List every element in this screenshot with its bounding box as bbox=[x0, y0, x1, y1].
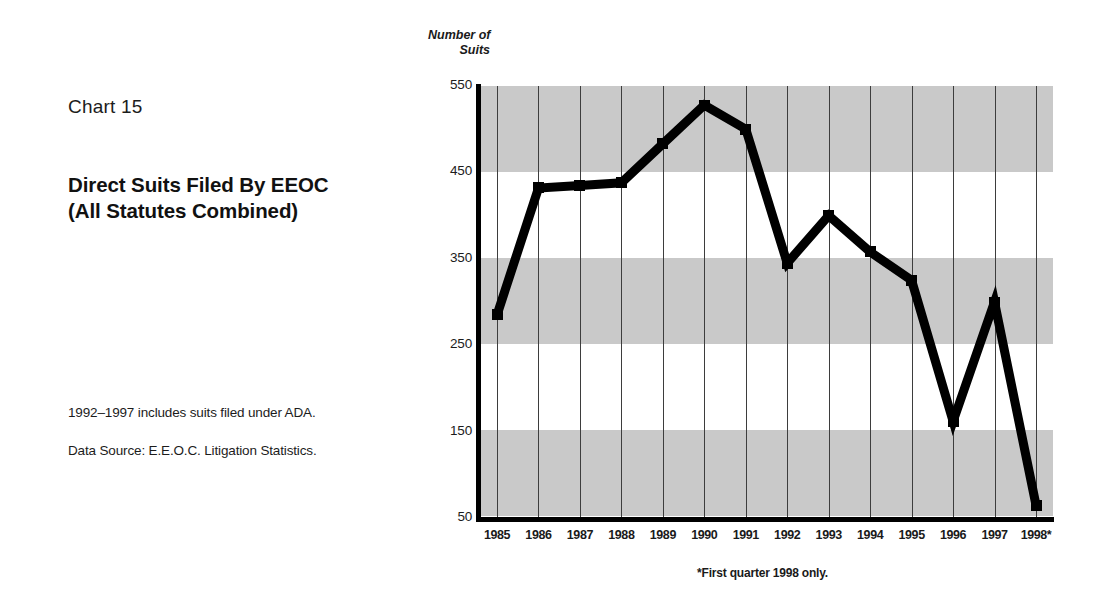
data-point-1990 bbox=[699, 100, 710, 111]
data-point-1998 bbox=[1031, 500, 1042, 511]
data-point-1994 bbox=[865, 246, 876, 257]
data-point-1989 bbox=[657, 138, 668, 149]
data-point-1993 bbox=[823, 210, 834, 221]
page-title-line-2: (All Statutes Combined) bbox=[68, 198, 398, 224]
chart-number-label: Chart 15 bbox=[68, 96, 142, 118]
series-line bbox=[420, 0, 1105, 596]
y-tick-label-250: 250 bbox=[426, 336, 472, 351]
description-panel: Chart 15 Direct Suits Filed By EEOC (All… bbox=[0, 0, 420, 596]
y-tick-label-450: 450 bbox=[426, 163, 472, 178]
y-tick-label-350: 350 bbox=[426, 250, 472, 265]
page-title: Direct Suits Filed By EEOC (All Statutes… bbox=[68, 172, 398, 224]
chart-container: Number of Suits *First quarter 1998 only… bbox=[420, 0, 1105, 596]
data-point-1997 bbox=[989, 297, 1000, 308]
note-data-source: Data Source: E.E.O.C. Litigation Statist… bbox=[68, 443, 418, 458]
data-point-1991 bbox=[740, 124, 751, 135]
data-point-1986 bbox=[533, 182, 544, 193]
y-tick-label-550: 550 bbox=[426, 77, 472, 92]
data-point-1985 bbox=[492, 309, 503, 320]
x-tick-label-1998: 1998* bbox=[1010, 528, 1062, 542]
notes-block: 1992–1997 includes suits filed under ADA… bbox=[68, 405, 418, 481]
page-title-line-1: Direct Suits Filed By EEOC bbox=[68, 172, 398, 198]
data-point-1992 bbox=[782, 258, 793, 269]
data-point-1987 bbox=[574, 180, 585, 191]
data-point-1988 bbox=[616, 177, 627, 188]
note-ada: 1992–1997 includes suits filed under ADA… bbox=[68, 405, 418, 420]
series-polyline bbox=[497, 105, 1036, 505]
y-tick-label-50: 50 bbox=[426, 509, 472, 524]
y-tick-label-150: 150 bbox=[426, 423, 472, 438]
chart-footnote: *First quarter 1998 only. bbox=[420, 566, 1105, 580]
data-point-1995 bbox=[906, 275, 917, 286]
data-point-1996 bbox=[948, 416, 959, 427]
